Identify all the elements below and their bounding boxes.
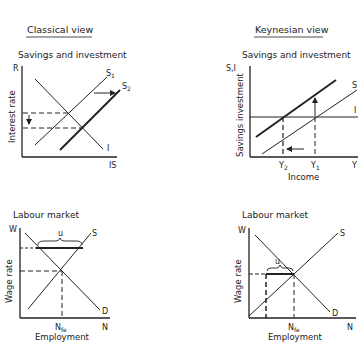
keynesian-view-heading: Keynesian view xyxy=(255,24,329,35)
investment-curve xyxy=(35,79,103,149)
demand-curve-label: D xyxy=(102,307,108,316)
chart-title: Savings and investment xyxy=(242,50,351,60)
savings-curve-s1-label: S1 xyxy=(106,69,115,79)
investment-curve-label: I xyxy=(354,106,356,115)
x-axis-symbol: IS xyxy=(109,161,116,170)
y-axis-label: Interest rate xyxy=(7,90,17,143)
y-axis-symbol: W xyxy=(9,225,17,234)
y-axis-symbol: W xyxy=(238,226,246,235)
savings-curve-s1 xyxy=(35,77,107,145)
economics-diagram: Classical view Savings and investment R … xyxy=(0,0,364,343)
y-axis-label: Savings investment xyxy=(235,72,245,157)
unemployment-label: u xyxy=(58,229,63,238)
chart-title: Labour market xyxy=(242,210,308,220)
y-axis-symbol: S,I xyxy=(226,64,236,73)
full-employment-label: Nfe xyxy=(288,323,300,333)
keynesian-savings-investment-chart: Savings and investment S,I Savings inves… xyxy=(226,50,358,182)
investment-curve-label: I xyxy=(107,144,109,153)
classical-view-heading: Classical view xyxy=(27,24,93,35)
x-axis-label: Income xyxy=(288,172,319,182)
classical-view-panel: Classical view Savings and investment R … xyxy=(4,24,131,342)
savings-curve-s2-label: S2 xyxy=(122,82,131,92)
full-employment-label: Nfe xyxy=(55,323,67,333)
supply-curve-label: S xyxy=(340,229,345,238)
y-axis-label: Wage rate xyxy=(233,259,243,303)
unemployment-label: u xyxy=(275,257,280,266)
shifted-savings-curve xyxy=(256,80,336,137)
income-y2-label: Y2 xyxy=(278,161,288,171)
demand-curve-label: D xyxy=(332,309,338,318)
savings-curve-s2 xyxy=(60,90,120,150)
keynesian-view-panel: Keynesian view Savings and investment S,… xyxy=(226,24,358,342)
supply-curve-label: S xyxy=(92,229,97,238)
y-axis-symbol: R xyxy=(13,64,19,73)
x-axis-symbol: Y xyxy=(351,161,357,170)
x-axis-label: Employment xyxy=(268,332,323,342)
classical-savings-investment-chart: Savings and investment R Interest rate I… xyxy=(7,50,131,170)
chart-title: Savings and investment xyxy=(18,50,127,60)
x-axis-symbol: N xyxy=(102,323,108,332)
y-axis-label: Wage rate xyxy=(4,259,14,303)
x-axis-label: Employment xyxy=(35,332,90,342)
chart-title: Labour market xyxy=(13,210,79,220)
savings-curve-label: S xyxy=(352,81,357,90)
classical-labour-market-chart: Labour market W Wage rate N Employment D… xyxy=(4,210,110,342)
income-y1-label: Y1 xyxy=(310,161,320,171)
x-axis-symbol: N xyxy=(347,323,353,332)
unemployment-brace xyxy=(38,238,82,245)
keynesian-labour-market-chart: Labour market W Wage rate N Employment D… xyxy=(233,210,356,342)
